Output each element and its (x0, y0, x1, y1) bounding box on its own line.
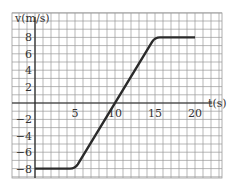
y-axis-label: v(m/s) (14, 12, 50, 25)
y-tick-label: −2 (16, 113, 32, 126)
x-tick-label: 15 (148, 107, 162, 120)
y-tick-label: 6 (25, 48, 32, 61)
y-tick-label: −4 (16, 130, 32, 143)
velocity-time-chart: 51015208642−2−4−6−8 v(m/s) t(s) (0, 0, 236, 194)
y-tick-label: −6 (16, 146, 32, 159)
y-tick-label: 4 (25, 64, 32, 77)
y-tick-label: 8 (25, 31, 32, 44)
y-tick-label: −8 (16, 163, 32, 176)
x-axis-label: t(s) (208, 97, 227, 110)
x-tick-label: 5 (72, 107, 79, 120)
y-tick-label: 2 (25, 81, 32, 94)
x-tick-label: 20 (188, 107, 202, 120)
